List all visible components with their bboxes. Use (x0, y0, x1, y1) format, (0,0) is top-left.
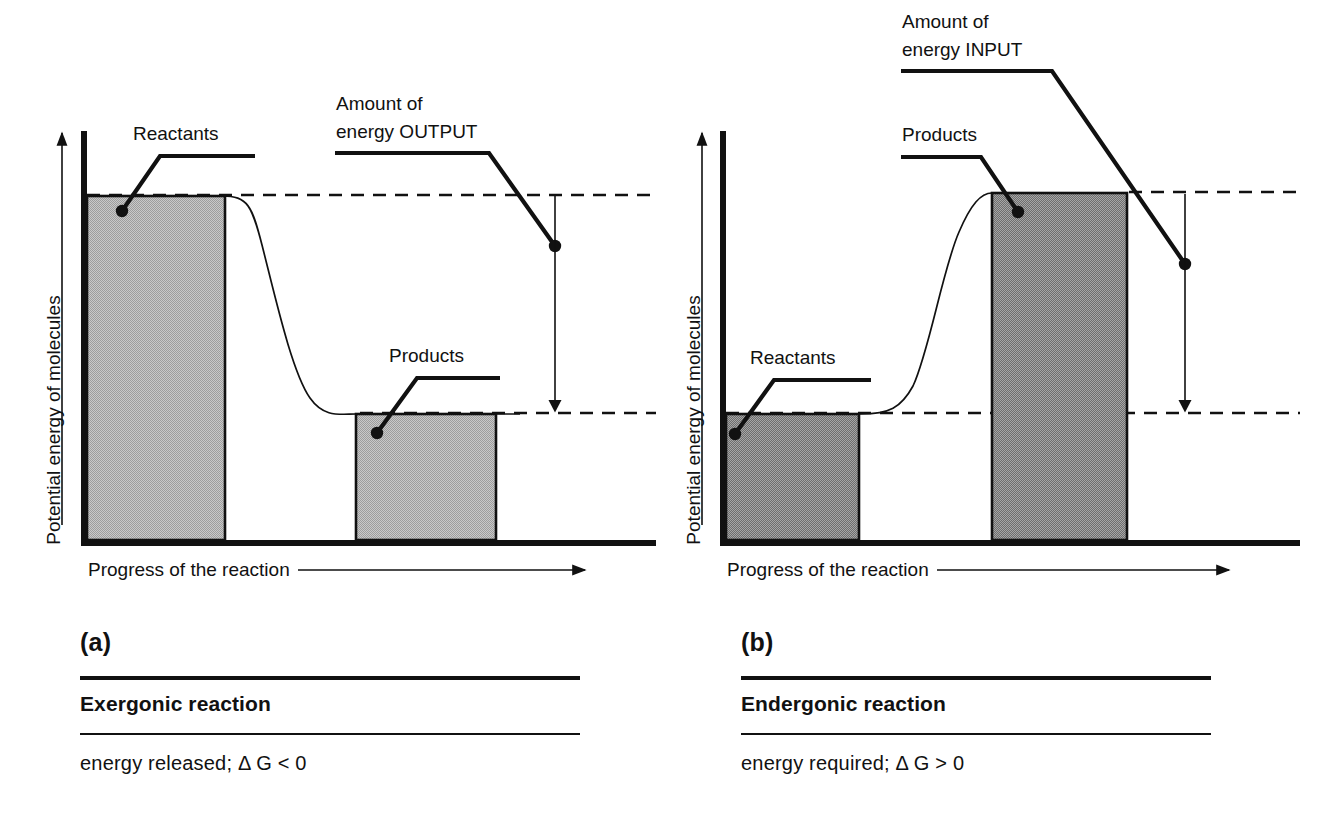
caption-rule-bottom (80, 733, 580, 735)
panel-letter-b: (b) (741, 628, 774, 657)
products-leader-dot (371, 427, 383, 439)
energy-input-label-line2: energy INPUT (902, 39, 1023, 60)
caption-subtitle-a: energy released; Δ G < 0 (80, 752, 307, 775)
products-bar (992, 193, 1127, 540)
products-label: Products (389, 345, 464, 366)
panel-exergonic: Potential energy of molecules Reactants … (0, 0, 661, 819)
reactants-bar (726, 414, 859, 540)
reactants-leader-dot (116, 205, 128, 217)
panel-endergonic: Potential energy of molecules Reactants … (661, 0, 1322, 819)
y-axis-label: Potential energy of molecules (683, 295, 704, 544)
endergonic-energy-diagram: Potential energy of molecules Reactants … (661, 0, 1322, 600)
energy-output-leader-line (335, 153, 555, 246)
energy-output-callout: Amount of energy OUTPUT (335, 93, 561, 252)
panel-letter-a: (a) (80, 628, 111, 657)
energy-output-label-line1: Amount of (336, 93, 423, 114)
caption-subtitle-b: energy required; Δ G > 0 (741, 752, 964, 775)
products-leader-dot (1012, 206, 1024, 218)
caption-rule-top (80, 676, 580, 680)
caption-title-b: Endergonic reaction (741, 692, 946, 716)
energy-output-label-line2: energy OUTPUT (336, 121, 478, 142)
caption-title-a: Exergonic reaction (80, 692, 271, 716)
caption-rule-bottom (741, 733, 1211, 735)
reactants-label: Reactants (750, 347, 836, 368)
endergonic-caption-block: (b) Endergonic reaction energy required;… (661, 600, 1322, 819)
reactants-leader-dot (729, 428, 741, 440)
reactants-bar (87, 196, 225, 540)
caption-rule-top (741, 676, 1211, 680)
exergonic-energy-diagram: Potential energy of molecules Reactants … (0, 0, 661, 600)
y-axis-label: Potential energy of molecules (43, 295, 64, 544)
exergonic-caption-block: (a) Exergonic reaction energy released; … (0, 600, 661, 819)
x-axis-label: Progress of the reaction (727, 559, 929, 580)
reactants-label: Reactants (133, 123, 219, 144)
products-label: Products (902, 124, 977, 145)
x-axis-label: Progress of the reaction (88, 559, 290, 580)
energy-input-label-line1: Amount of (902, 11, 989, 32)
